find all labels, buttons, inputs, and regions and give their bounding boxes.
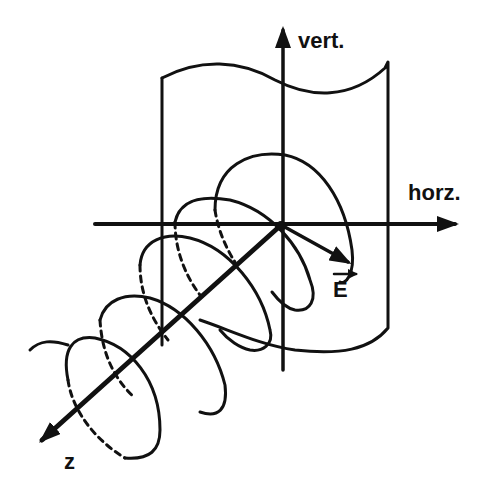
vertical-axis-label: vert.	[298, 28, 344, 53]
helix-lead	[30, 342, 68, 350]
diagram-canvas: vert. horz. E z	[0, 0, 488, 479]
helix-turn-2	[175, 198, 313, 310]
helix-hidden-2	[175, 222, 200, 295]
e-label: E	[333, 277, 348, 302]
wavefront-plane	[162, 62, 388, 352]
horizontal-axis-label: horz.	[408, 180, 461, 205]
helix-turn-5	[66, 338, 160, 459]
polarization-diagram: vert. horz. E z	[0, 0, 488, 479]
z-axis-label: z	[64, 449, 75, 474]
field-vector-label: E	[333, 274, 356, 302]
origin-point	[276, 221, 286, 231]
